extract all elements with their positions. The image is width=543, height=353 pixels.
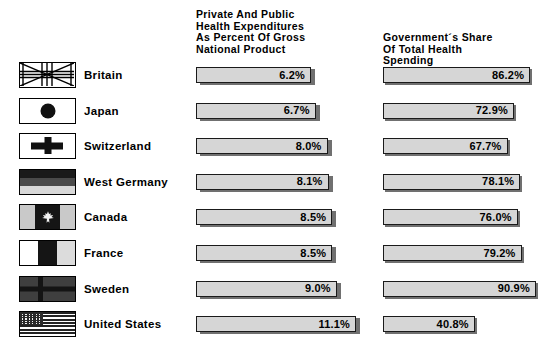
flag-stripe — [20, 332, 75, 334]
us-star — [22, 318, 23, 319]
flag-west-germany-icon — [19, 169, 76, 195]
country-label: France — [84, 240, 124, 266]
chart-row: France8.5%79.2% — [0, 240, 543, 266]
country-label: West Germany — [84, 169, 168, 195]
us-star — [25, 316, 26, 317]
us-star — [25, 321, 26, 322]
bar-health-expenditure[interactable]: 6.7% — [196, 103, 316, 119]
us-star — [22, 323, 23, 324]
health-expenditures-chart: Private And Public Health Expenditures A… — [0, 0, 543, 353]
column-header-health-expenditures: Private And Public Health Expenditures A… — [196, 9, 346, 55]
bar-value-label: 67.7% — [469, 141, 506, 152]
maple-leaf-icon — [41, 210, 54, 224]
bar-value-label: 76.0% — [480, 212, 517, 223]
flag-stripe — [20, 329, 75, 331]
bar-value-label: 79.2% — [483, 248, 520, 259]
flag-band — [20, 241, 38, 265]
flag-britain-icon — [19, 62, 76, 88]
chart-row: Britain6.2%86.2% — [0, 62, 543, 88]
bar-health-expenditure[interactable]: 6.2% — [196, 67, 311, 83]
us-star — [32, 314, 33, 315]
us-star — [39, 321, 40, 322]
country-label: United States — [84, 311, 161, 337]
us-star — [25, 318, 26, 319]
bar-value-label: 78.1% — [482, 176, 519, 187]
bar-value-label: 6.2% — [279, 70, 310, 81]
bar-government-share[interactable]: 76.0% — [383, 209, 518, 225]
us-star — [32, 321, 33, 322]
flag-band — [20, 178, 75, 186]
us-star — [36, 314, 37, 315]
chart-row: West Germany8.1%78.1% — [0, 169, 543, 195]
us-star — [32, 316, 33, 317]
flag-band — [20, 205, 35, 229]
bar-health-expenditure[interactable]: 8.5% — [196, 245, 332, 261]
us-star — [25, 323, 26, 324]
us-star — [29, 321, 30, 322]
chart-row: Japan6.7%72.9% — [0, 98, 543, 124]
us-star — [39, 314, 40, 315]
chart-row: Switzerland8.0%67.7% — [0, 133, 543, 159]
bar-value-label: 6.7% — [284, 105, 315, 116]
country-label: Britain — [84, 62, 123, 88]
bar-health-expenditure[interactable]: 11.1% — [196, 316, 356, 332]
bar-government-share[interactable]: 40.8% — [383, 316, 475, 332]
flag-japan-icon — [19, 98, 76, 124]
bar-government-share[interactable]: 72.9% — [383, 103, 514, 119]
us-star — [36, 316, 37, 317]
us-star — [32, 323, 33, 324]
bar-value-label: 8.5% — [300, 212, 331, 223]
flag-band — [20, 186, 75, 194]
us-star — [29, 318, 30, 319]
chart-row: Sweden9.0%90.9% — [0, 276, 543, 302]
nordic-cross — [20, 286, 75, 291]
country-label: Japan — [84, 98, 119, 124]
japan-disc — [40, 103, 55, 118]
bar-health-expenditure[interactable]: 9.0% — [196, 281, 337, 297]
flag-band — [57, 241, 75, 265]
flag-band — [60, 205, 75, 229]
chart-row: United States11.1%40.8% — [0, 311, 543, 337]
us-star — [39, 318, 40, 319]
bar-government-share[interactable]: 67.7% — [383, 138, 508, 154]
bar-health-expenditure[interactable]: 8.0% — [196, 138, 328, 154]
flag-france-icon — [19, 240, 76, 266]
us-star — [22, 314, 23, 315]
bar-health-expenditure[interactable]: 8.5% — [196, 209, 332, 225]
bar-value-label: 11.1% — [319, 319, 356, 330]
flag-band — [38, 241, 56, 265]
bar-value-label: 8.5% — [300, 248, 331, 259]
flag-sweden-icon — [19, 276, 76, 302]
bar-government-share[interactable]: 90.9% — [383, 281, 536, 297]
us-star — [22, 321, 23, 322]
us-star — [29, 323, 30, 324]
bar-value-label: 8.0% — [296, 141, 327, 152]
us-star — [29, 316, 30, 317]
us-star — [36, 321, 37, 322]
flag-united-states-icon — [19, 311, 76, 337]
swiss-cross — [31, 143, 63, 150]
bar-government-share[interactable]: 78.1% — [383, 174, 520, 190]
us-star — [22, 316, 23, 317]
country-label: Canada — [84, 204, 127, 230]
flag-stripe — [20, 325, 75, 327]
bar-value-label: 40.8% — [437, 319, 474, 330]
flag-band — [20, 170, 75, 178]
bar-value-label: 72.9% — [476, 105, 513, 116]
us-star — [32, 318, 33, 319]
bar-government-share[interactable]: 79.2% — [383, 245, 522, 261]
bar-government-share[interactable]: 86.2% — [383, 67, 530, 83]
us-star — [39, 323, 40, 324]
us-star — [36, 323, 37, 324]
bottom-caption — [104, 344, 364, 352]
us-star — [39, 316, 40, 317]
bar-health-expenditure[interactable]: 8.1% — [196, 174, 329, 190]
flag-canada-icon — [19, 204, 76, 230]
us-star — [29, 314, 30, 315]
us-star — [36, 318, 37, 319]
bar-value-label: 90.9% — [498, 283, 535, 294]
us-star — [25, 314, 26, 315]
bar-value-label: 86.2% — [492, 70, 529, 81]
us-canton — [20, 312, 43, 325]
country-label: Switzerland — [84, 133, 151, 159]
